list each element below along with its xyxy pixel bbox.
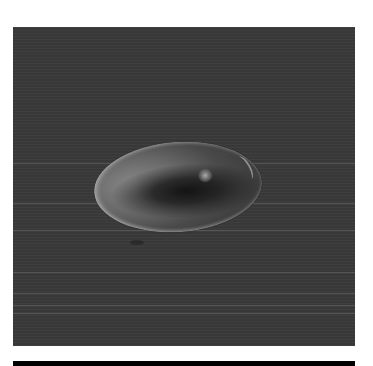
droplet-highlight [198, 169, 213, 183]
droplet-rim-glint [233, 154, 256, 183]
scan-line [13, 305, 355, 306]
droplet [91, 136, 265, 237]
scan-line [13, 293, 355, 294]
photo-panel [13, 27, 355, 346]
surface-spot [130, 240, 144, 245]
bottom-bar [13, 361, 355, 366]
scan-line [13, 272, 355, 273]
scan-line [13, 313, 355, 314]
